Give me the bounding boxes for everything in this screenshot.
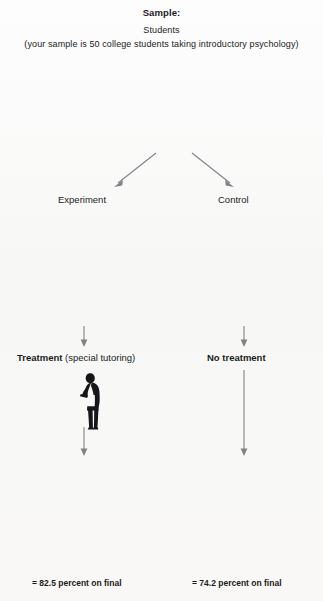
sample-description: (your sample is 50 college students taki… — [0, 39, 323, 49]
result-control: = 74.2 percent on final — [192, 578, 282, 588]
sample-subject: Students — [0, 25, 323, 35]
arrow-notreatment-to-result — [239, 370, 249, 457]
crowd-control-group — [172, 212, 312, 322]
crowd-sample — [14, 58, 310, 158]
page-title: Sample: — [0, 7, 323, 18]
experiment-diagram: Sample: Students (your sample is 50 coll… — [0, 0, 323, 601]
arrow-to-control — [190, 152, 236, 190]
crowd-experiment-result — [14, 458, 154, 570]
result-experiment: = 82.5 percent on final — [32, 578, 122, 588]
crowd-control-result — [172, 458, 312, 570]
label-control: Control — [218, 194, 249, 205]
arrow-to-experiment — [112, 152, 158, 190]
label-no-treatment: No treatment — [207, 352, 266, 363]
arrow-treatment-to-result — [79, 427, 89, 457]
tutor-silhouette-icon — [74, 372, 110, 430]
label-experiment: Experiment — [58, 194, 106, 205]
label-treatment-detail: (special tutoring) — [65, 352, 135, 363]
arrow-experiment-to-treatment — [79, 326, 89, 348]
label-treatment: Treatment (special tutoring) — [17, 352, 135, 363]
crowd-experiment-group — [14, 212, 154, 322]
label-treatment-bold: Treatment — [17, 352, 62, 363]
arrow-control-to-notreatment — [239, 326, 249, 348]
